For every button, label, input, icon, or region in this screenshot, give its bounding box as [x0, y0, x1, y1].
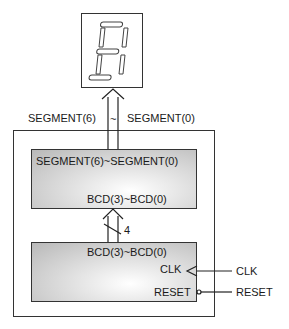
inversion-bubble-icon [197, 290, 201, 294]
external-clk-label: CLK [236, 265, 257, 277]
bus-arrowhead-icon [102, 89, 124, 99]
bus-label-segment6: SEGMENT(6) [28, 112, 96, 124]
clock-triangle-icon [187, 266, 197, 276]
external-reset-label: RESET [236, 286, 273, 298]
bus-label-segment0: SEGMENT(0) [127, 112, 195, 124]
wiring [0, 0, 289, 329]
bus-tilde: ~ [110, 113, 116, 125]
bus-width-label: 4 [124, 224, 130, 236]
bus-arrowhead-icon [103, 209, 123, 219]
